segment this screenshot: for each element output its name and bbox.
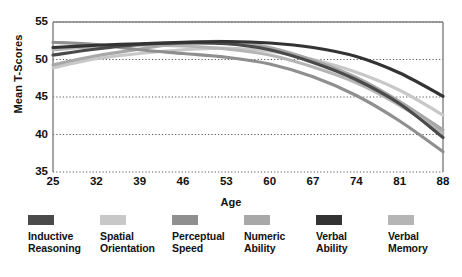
x-axis-tick-label: 88	[425, 176, 461, 188]
legend-swatch-icon	[172, 215, 198, 225]
legend-swatch-icon	[100, 215, 126, 225]
legend-item[interactable]: Spatial Orientation	[100, 215, 178, 254]
series-line	[53, 48, 443, 115]
series-line	[53, 45, 443, 133]
x-axis-tick-label: 81	[382, 176, 418, 188]
x-axis-tick-label: 46	[165, 176, 201, 188]
legend-item-label: Numeric Ability	[244, 230, 322, 254]
series-lines	[53, 41, 443, 152]
x-axis-tick-label: 74	[338, 176, 374, 188]
legend-swatch-icon	[244, 215, 270, 225]
chart-figure: Mean T-Scores 5550454035 Age 25323946536…	[0, 0, 462, 277]
legend-swatch-icon	[28, 215, 54, 225]
legend-item[interactable]: Verbal Ability	[316, 215, 394, 254]
chart-plot-area: Mean T-Scores 5550454035 Age 25323946536…	[0, 0, 462, 212]
legend-swatch-icon	[316, 215, 342, 225]
legend-item-label: Verbal Ability	[316, 230, 394, 254]
legend-swatch-icon	[388, 215, 414, 225]
legend-item-label: Verbal Memory	[388, 230, 462, 254]
legend-item-label: Inductive Reasoning	[28, 230, 106, 254]
x-axis-tick-label: 25	[35, 176, 71, 188]
x-axis-tick-label: 53	[208, 176, 244, 188]
x-axis-tick-label: 60	[252, 176, 288, 188]
x-axis-tick-label: 67	[295, 176, 331, 188]
legend-item-label: Spatial Orientation	[100, 230, 178, 254]
legend-item[interactable]: Numeric Ability	[244, 215, 322, 254]
chart-legend: Inductive ReasoningSpatial OrientationPe…	[0, 215, 462, 277]
x-axis-label: Age	[0, 196, 462, 208]
series-line	[53, 41, 443, 130]
x-axis-tick-label: 32	[78, 176, 114, 188]
legend-item[interactable]: Inductive Reasoning	[28, 215, 106, 254]
legend-item[interactable]: Perceptual Speed	[172, 215, 250, 254]
legend-item-label: Perceptual Speed	[172, 230, 250, 254]
legend-item[interactable]: Verbal Memory	[388, 215, 462, 254]
x-axis-tick-label: 39	[122, 176, 158, 188]
